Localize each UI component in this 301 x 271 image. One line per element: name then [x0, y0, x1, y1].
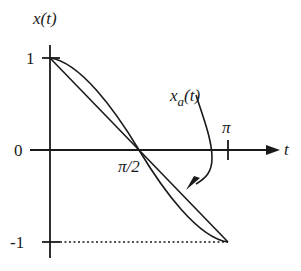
y-tick-label-1: 1 [26, 49, 35, 68]
y-tick-label-neg1: -1 [10, 233, 24, 252]
annotation-pointer [196, 95, 212, 184]
x-tick-label-pi: π [222, 118, 231, 137]
x-axis-arrow-icon [266, 145, 280, 155]
curve-annotation-label: xa(t) [169, 86, 200, 109]
signal-diagram: x(t) t 1 0 -1 π/2 π xa(t) [0, 0, 301, 271]
x-tick-label-pi-half: π/2 [118, 157, 140, 176]
y-axis-label: x(t) [32, 9, 57, 28]
x-axis-label: t [284, 140, 290, 159]
y-tick-label-0: 0 [14, 141, 23, 160]
